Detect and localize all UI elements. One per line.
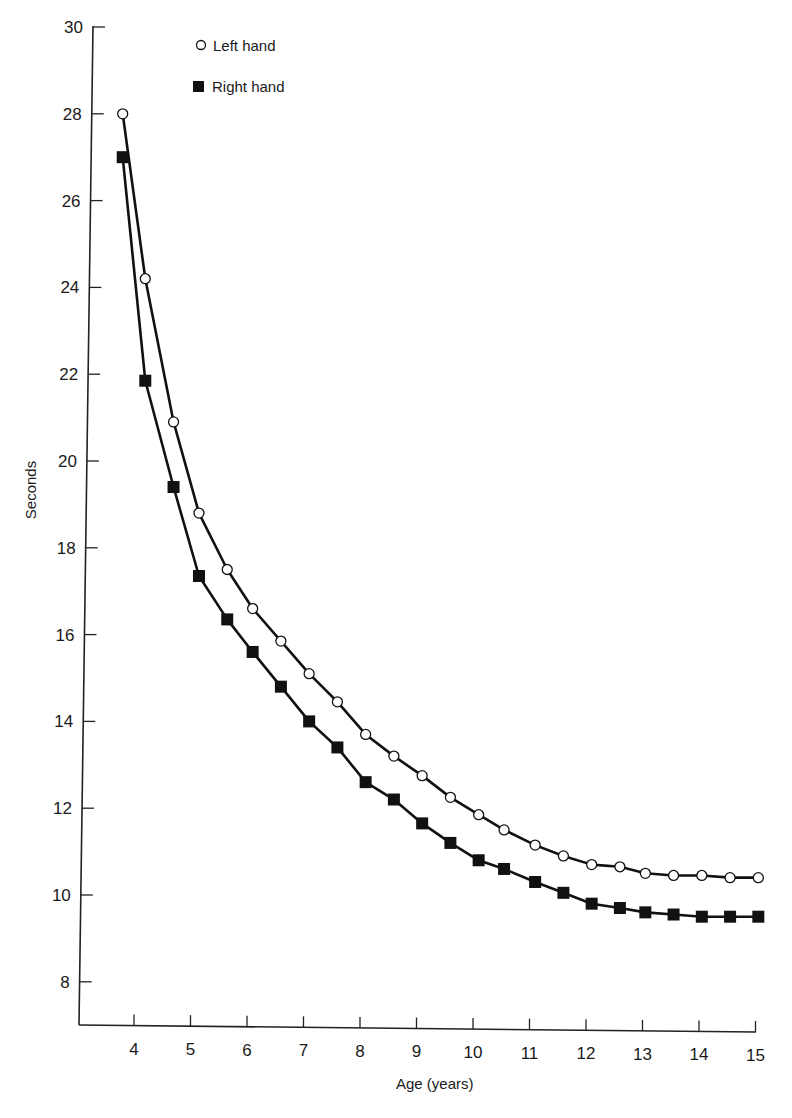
series-line-right-hand bbox=[123, 157, 759, 917]
data-point-filled-square-icon bbox=[724, 911, 736, 923]
data-point-open-circle-icon bbox=[140, 274, 150, 284]
data-point-filled-square-icon bbox=[416, 817, 428, 829]
legend-label-left-hand: Left hand bbox=[213, 37, 276, 54]
data-point-open-circle-icon bbox=[361, 729, 371, 739]
data-point-open-circle-icon bbox=[587, 860, 597, 870]
legend-open-circle-icon bbox=[197, 41, 206, 50]
series-line-left-hand bbox=[123, 114, 759, 878]
data-point-open-circle-icon bbox=[248, 604, 258, 614]
y-tick-label: 12 bbox=[53, 799, 72, 818]
data-point-filled-square-icon bbox=[139, 375, 151, 387]
data-point-filled-square-icon bbox=[221, 613, 233, 625]
x-tick-label: 10 bbox=[464, 1043, 483, 1062]
y-axis-ticks: 81012141618202224262830 bbox=[52, 18, 105, 992]
line-chart: 81012141618202224262830 4567891011121314… bbox=[0, 0, 792, 1118]
data-point-filled-square-icon bbox=[117, 151, 129, 163]
y-tick-label: 30 bbox=[64, 18, 83, 37]
legend-label-right-hand: Right hand bbox=[212, 78, 285, 95]
axes bbox=[79, 26, 756, 1032]
x-tick-label: 6 bbox=[242, 1041, 251, 1060]
x-axis bbox=[79, 1025, 756, 1032]
x-axis-title: Age (years) bbox=[396, 1075, 474, 1092]
x-tick-label: 14 bbox=[690, 1045, 709, 1064]
data-point-filled-square-icon bbox=[331, 741, 343, 753]
legend: Left hand Right hand bbox=[193, 37, 285, 95]
data-point-open-circle-icon bbox=[725, 873, 735, 883]
y-axis bbox=[79, 26, 93, 1025]
legend-filled-square-icon bbox=[193, 81, 204, 92]
data-point-filled-square-icon bbox=[168, 481, 180, 493]
x-tick-label: 4 bbox=[129, 1040, 138, 1059]
data-point-filled-square-icon bbox=[752, 911, 764, 923]
data-point-open-circle-icon bbox=[304, 669, 314, 679]
x-tick-label: 5 bbox=[186, 1040, 195, 1059]
data-point-filled-square-icon bbox=[696, 911, 708, 923]
y-tick-label: 18 bbox=[57, 539, 76, 558]
data-point-filled-square-icon bbox=[529, 876, 541, 888]
x-axis-ticks: 456789101112131415 bbox=[129, 1015, 765, 1065]
data-point-filled-square-icon bbox=[557, 887, 569, 899]
x-tick-label: 7 bbox=[299, 1041, 308, 1060]
series-lines bbox=[123, 114, 759, 917]
x-tick-label: 9 bbox=[412, 1042, 421, 1061]
data-point-open-circle-icon bbox=[417, 771, 427, 781]
data-point-filled-square-icon bbox=[360, 776, 372, 788]
data-point-open-circle-icon bbox=[194, 508, 204, 518]
data-point-filled-square-icon bbox=[498, 863, 510, 875]
data-point-open-circle-icon bbox=[530, 840, 540, 850]
data-point-open-circle-icon bbox=[697, 870, 707, 880]
data-point-open-circle-icon bbox=[445, 792, 455, 802]
data-point-open-circle-icon bbox=[332, 697, 342, 707]
y-axis-title: Seconds bbox=[22, 461, 39, 519]
data-point-filled-square-icon bbox=[193, 570, 205, 582]
data-point-open-circle-icon bbox=[169, 417, 179, 427]
data-point-filled-square-icon bbox=[473, 854, 485, 866]
series-markers bbox=[117, 109, 765, 923]
data-point-filled-square-icon bbox=[275, 681, 287, 693]
x-tick-label: 15 bbox=[746, 1046, 765, 1065]
y-tick-label: 10 bbox=[52, 886, 71, 905]
data-point-filled-square-icon bbox=[303, 715, 315, 727]
y-tick-label: 26 bbox=[62, 192, 81, 211]
data-point-filled-square-icon bbox=[586, 898, 598, 910]
x-tick-label: 12 bbox=[577, 1044, 596, 1063]
y-tick-label: 28 bbox=[63, 105, 82, 124]
data-point-filled-square-icon bbox=[668, 909, 680, 921]
data-point-filled-square-icon bbox=[639, 906, 651, 918]
data-point-open-circle-icon bbox=[118, 109, 128, 119]
data-point-open-circle-icon bbox=[389, 751, 399, 761]
y-tick-label: 20 bbox=[58, 452, 77, 471]
data-point-filled-square-icon bbox=[388, 794, 400, 806]
data-point-open-circle-icon bbox=[640, 868, 650, 878]
data-point-open-circle-icon bbox=[669, 870, 679, 880]
y-tick-label: 8 bbox=[60, 973, 69, 992]
x-tick-label: 11 bbox=[521, 1044, 539, 1063]
y-tick-label: 16 bbox=[56, 626, 75, 645]
y-tick-label: 22 bbox=[59, 365, 78, 384]
data-point-open-circle-icon bbox=[474, 810, 484, 820]
data-point-open-circle-icon bbox=[499, 825, 509, 835]
data-point-open-circle-icon bbox=[222, 565, 232, 575]
data-point-filled-square-icon bbox=[614, 902, 626, 914]
data-point-filled-square-icon bbox=[444, 837, 456, 849]
x-tick-label: 13 bbox=[633, 1045, 652, 1064]
data-point-open-circle-icon bbox=[276, 636, 286, 646]
x-tick-label: 8 bbox=[355, 1042, 364, 1061]
y-tick-label: 24 bbox=[60, 278, 79, 297]
y-tick-label: 14 bbox=[54, 712, 73, 731]
data-point-open-circle-icon bbox=[753, 873, 763, 883]
data-point-open-circle-icon bbox=[615, 862, 625, 872]
data-point-open-circle-icon bbox=[558, 851, 568, 861]
data-point-filled-square-icon bbox=[247, 646, 259, 658]
